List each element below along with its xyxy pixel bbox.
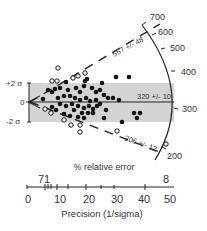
age-label-206: 206 +/- 12 <box>123 133 158 153</box>
y-tick-plus2: +2 σ <box>6 79 22 88</box>
radial-tick-300: 300 <box>182 104 197 114</box>
x-tick-10: 10 <box>54 193 66 205</box>
x-tick-40: 40 <box>138 193 150 205</box>
top-tick-71: 71 <box>38 173 50 185</box>
radial-tick-700: 700 <box>150 12 165 22</box>
radial-tick-200: 200 <box>167 151 182 161</box>
top-tick-8: 8 <box>163 173 169 185</box>
y-tick-0: 0 <box>20 98 25 107</box>
radial-tick-600: 600 <box>158 27 173 37</box>
x-tick-0: 0 <box>25 193 31 205</box>
radial-plot: +2 σ 0 -2 σ 320 +/- 10 557 +/- 48 206 +/… <box>0 0 207 231</box>
x-tick-20: 20 <box>83 193 95 205</box>
top-axis-title: % relative error <box>73 162 134 172</box>
radial-tick-400: 400 <box>181 67 196 77</box>
x-axis-title: Precision (1/sigma) <box>61 208 142 219</box>
age-label-320: 320 +/- 10 <box>137 92 171 101</box>
age-label-557: 557 +/- 48 <box>111 35 145 59</box>
y-tick-minus2: -2 σ <box>6 117 20 126</box>
x-tick-50: 50 <box>164 193 176 205</box>
x-tick-30: 30 <box>111 193 123 205</box>
radial-tick-500: 500 <box>170 43 185 53</box>
